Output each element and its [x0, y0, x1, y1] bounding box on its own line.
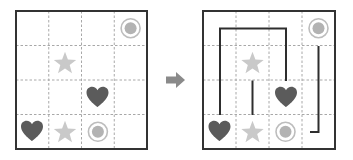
unsolved-grid [16, 11, 147, 149]
heart-icon [209, 121, 231, 141]
star-icon [241, 52, 263, 73]
circle-icon [309, 19, 328, 38]
diagram-canvas [0, 0, 353, 160]
heart-icon [275, 87, 297, 107]
star-icon [54, 52, 76, 73]
circle-icon [121, 19, 140, 38]
heart-icon [87, 87, 109, 107]
puzzle-diagram [0, 0, 353, 160]
heart-icon [21, 121, 43, 141]
right-arrow-icon [166, 72, 185, 88]
circle-path [310, 46, 319, 132]
solved-grid [203, 11, 335, 149]
star-icon [241, 121, 263, 142]
circle-icon [276, 122, 295, 141]
circle-icon [88, 122, 107, 141]
star-icon [54, 121, 76, 142]
